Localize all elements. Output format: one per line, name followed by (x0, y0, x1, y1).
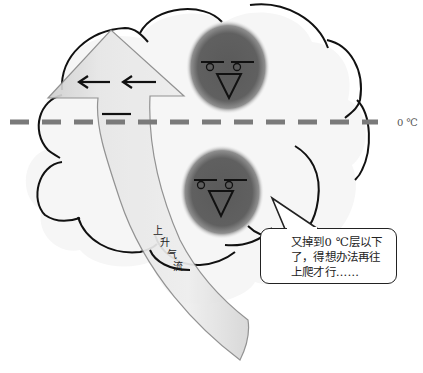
updraft-label-char-4: 流 (173, 258, 183, 273)
upper-particle-character (186, 20, 270, 114)
speech-line-3: 上爬才行…… (291, 265, 388, 280)
freezing-level-label: 0 ℃ (397, 117, 418, 128)
speech-bubble: 又掉到0 ℃层以下 了，得想办法再往 上爬才行…… (260, 228, 397, 284)
speech-line-1: 又掉到0 ℃层以下 (291, 235, 388, 250)
lower-particle-character (180, 145, 264, 239)
diagram-canvas (0, 0, 423, 373)
bubble-tail-join (287, 227, 317, 231)
speech-line-2: 了，得想办法再往 (291, 250, 388, 265)
particle-body (186, 20, 270, 114)
